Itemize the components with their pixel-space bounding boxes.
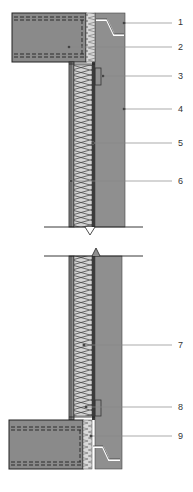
inner-board-upper [69,62,74,227]
concrete-wall-upper [95,13,125,227]
upper-section [12,13,143,235]
callout-7: 7 [178,340,183,350]
callout-2: 2 [178,42,183,52]
callout-1: 1 [178,17,183,27]
callout-9: 9 [178,431,183,441]
insulation-upper [74,65,92,227]
slab-edge-insulation-lower [83,420,92,469]
callout-6: 6 [178,176,183,186]
inner-board-lower [69,256,74,420]
callout-8: 8 [178,402,183,412]
membrane-lower [92,256,95,420]
callout-4: 4 [178,104,183,114]
callout-3: 3 [178,71,183,81]
concrete-wall-lower [95,256,122,469]
slab-edge-insulation-upper [86,13,95,62]
callout-5: 5 [178,138,183,148]
insulation-lower [74,256,92,416]
section-drawing [0,0,193,492]
